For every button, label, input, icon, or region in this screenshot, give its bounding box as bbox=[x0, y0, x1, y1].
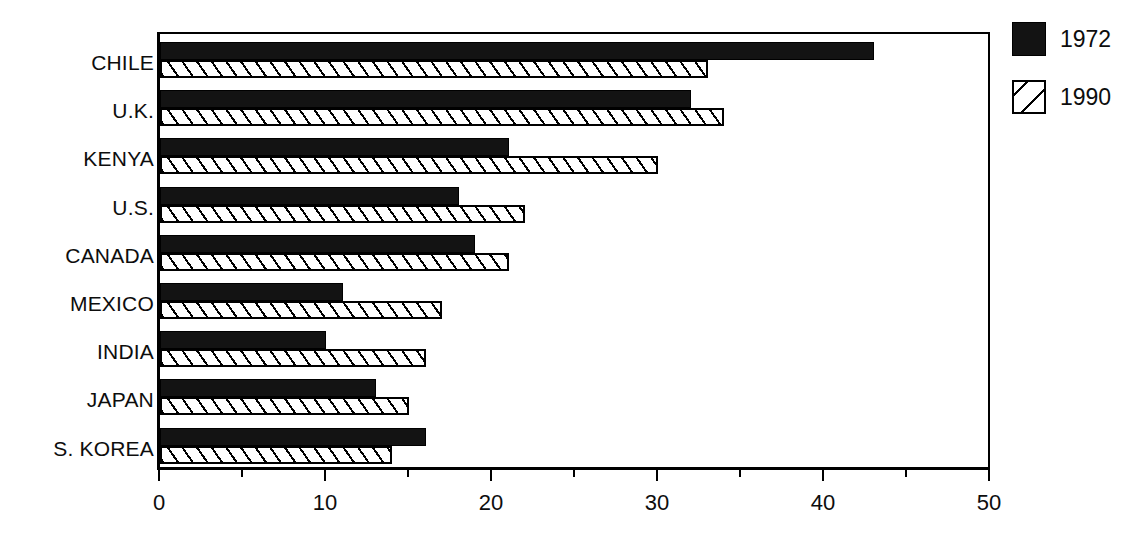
bar-1972-u-s bbox=[160, 187, 459, 205]
bar-1990-japan bbox=[160, 397, 409, 415]
bar-1990-india bbox=[160, 349, 426, 367]
x-tick-minor-15 bbox=[407, 470, 409, 477]
legend-item-1990: 1990 bbox=[1012, 80, 1129, 114]
x-tick-major-10 bbox=[324, 470, 326, 481]
x-tick-major-30 bbox=[656, 470, 658, 481]
bar-1990-u-s bbox=[160, 205, 525, 223]
x-tick-label-20: 20 bbox=[479, 490, 503, 516]
y-axis-label-india: INDIA bbox=[2, 341, 154, 362]
bar-1972-india bbox=[160, 331, 326, 349]
bar-1972-mexico bbox=[160, 283, 343, 301]
y-axis-label-s-korea: S. KOREA bbox=[2, 438, 154, 459]
x-tick-minor-25 bbox=[573, 470, 575, 477]
bar-1990-kenya bbox=[160, 156, 658, 174]
x-tick-minor-35 bbox=[739, 470, 741, 477]
legend-label-1990: 1990 bbox=[1060, 86, 1111, 109]
y-axis-label-chile: CHILE bbox=[2, 52, 154, 73]
x-tick-label-10: 10 bbox=[313, 490, 337, 516]
x-tick-label-40: 40 bbox=[811, 490, 835, 516]
y-axis-label-mexico: MEXICO bbox=[2, 293, 154, 314]
legend-label-1972: 1972 bbox=[1060, 28, 1111, 51]
x-tick-major-40 bbox=[822, 470, 824, 481]
y-axis-label-u-k: U.K. bbox=[2, 100, 154, 121]
bar-1972-canada bbox=[160, 235, 475, 253]
bar-1972-kenya bbox=[160, 138, 509, 156]
legend-item-1972: 1972 bbox=[1012, 22, 1129, 56]
legend-swatch-1990-icon bbox=[1012, 80, 1046, 114]
x-tick-label-50: 50 bbox=[977, 490, 1001, 516]
bar-1990-s-korea bbox=[160, 446, 392, 464]
bar-chart: CHILEU.K.KENYAU.S.CANADAMEXICOINDIAJAPAN… bbox=[0, 0, 1129, 539]
bar-1990-mexico bbox=[160, 301, 442, 319]
x-tick-label-0: 0 bbox=[153, 490, 165, 516]
y-axis-category-labels: CHILEU.K.KENYAU.S.CANADAMEXICOINDIAJAPAN… bbox=[0, 0, 154, 539]
y-axis-label-canada: CANADA bbox=[2, 245, 154, 266]
bar-1990-u-k bbox=[160, 108, 724, 126]
bar-1972-u-k bbox=[160, 90, 691, 108]
bar-1972-chile bbox=[160, 42, 874, 60]
x-tick-label-30: 30 bbox=[645, 490, 669, 516]
x-tick-minor-5 bbox=[241, 470, 243, 477]
x-tick-minor-45 bbox=[905, 470, 907, 477]
bars-container bbox=[160, 32, 990, 470]
y-axis-label-u-s: U.S. bbox=[2, 197, 154, 218]
legend: 1972 1990 bbox=[1012, 22, 1129, 138]
y-axis-label-japan: JAPAN bbox=[2, 389, 154, 410]
bar-1972-s-korea bbox=[160, 428, 426, 446]
bar-1990-chile bbox=[160, 60, 708, 78]
x-tick-major-50 bbox=[988, 470, 990, 481]
x-axis: 01020304050 bbox=[157, 470, 992, 539]
bar-1972-japan bbox=[160, 379, 376, 397]
bar-1990-canada bbox=[160, 253, 509, 271]
y-axis-label-kenya: KENYA bbox=[2, 148, 154, 169]
x-tick-major-0 bbox=[158, 470, 160, 481]
legend-swatch-1972-icon bbox=[1012, 22, 1046, 56]
x-tick-major-20 bbox=[490, 470, 492, 481]
